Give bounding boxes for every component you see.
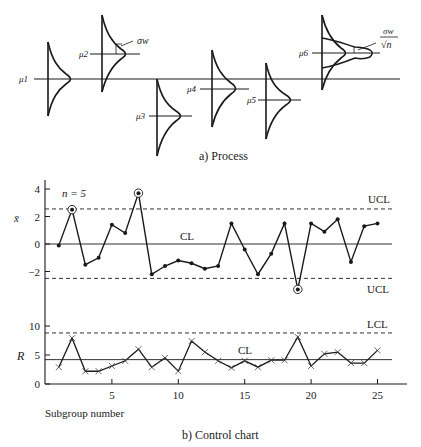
xbar-data-point xyxy=(190,261,194,265)
range-x-marker xyxy=(135,346,141,352)
xbar-data-point xyxy=(176,259,180,263)
range-x-marker xyxy=(122,358,128,364)
sigma-mean-numerator: σw xyxy=(383,26,393,36)
range-y-tick-label: 0 xyxy=(35,378,41,390)
xbar-data-point xyxy=(336,217,340,221)
xbar-data-point xyxy=(83,263,87,267)
distribution-3 xyxy=(149,79,192,156)
xbar-data-point xyxy=(70,208,74,212)
xbar-data-point xyxy=(296,287,300,291)
range-x-marker xyxy=(255,364,261,370)
range-x-marker xyxy=(215,358,221,364)
distribution-4 xyxy=(200,50,249,127)
range-x-marker xyxy=(308,363,314,369)
xbar-data-point xyxy=(110,223,114,227)
xbar-data-point xyxy=(269,252,273,256)
range-y-axis-label: R xyxy=(16,349,25,363)
distribution-5 xyxy=(258,63,301,139)
xbar-y-tick-label: 0 xyxy=(35,238,41,250)
process-labels: μ1 μ2 μ3 μ4 μ5 μ6 σw σw √n a) Process xyxy=(18,26,398,163)
mu-6-label: μ6 xyxy=(298,48,309,58)
sigma-mean-denominator: √n xyxy=(381,39,392,50)
distribution-2 xyxy=(90,15,140,92)
xbar-data-point xyxy=(349,260,353,264)
sample-size-label: n = 5 xyxy=(62,187,86,199)
range-x-marker xyxy=(149,364,155,370)
xbar-data-point xyxy=(216,264,220,268)
xbar-y-tick-label: 2 xyxy=(35,211,41,223)
range-x-marker xyxy=(69,335,75,341)
range-chart: 1050510152025 xyxy=(29,315,407,401)
x-tick-label: 10 xyxy=(173,389,185,401)
x-tick-label: 5 xyxy=(109,389,115,401)
xbar-data-point xyxy=(123,231,127,235)
range-x-marker xyxy=(109,363,115,369)
x-tick-label: 20 xyxy=(306,389,318,401)
range-x-marker xyxy=(175,368,181,374)
range-x-marker xyxy=(242,358,248,364)
process-caption: a) Process xyxy=(199,149,248,163)
xbar-data-point xyxy=(283,221,287,225)
x-tick-label: 15 xyxy=(239,389,251,401)
xbar-center-label: CL xyxy=(180,230,194,242)
xbar-upper-label: UCL xyxy=(368,193,390,205)
range-y-tick-label: 10 xyxy=(29,320,41,332)
xbar-data-point xyxy=(150,272,154,276)
range-series-line xyxy=(59,337,378,371)
mu-2-label: μ2 xyxy=(78,49,89,59)
xbar-data-point xyxy=(376,221,380,225)
range-x-marker xyxy=(295,334,301,340)
xbar-data-point xyxy=(203,267,207,271)
x-tick-label: 25 xyxy=(372,389,384,401)
xbar-chart: 420−2 xyxy=(28,180,392,315)
xbar-data-point xyxy=(229,221,233,225)
xbar-lower-label: UCL xyxy=(367,283,389,295)
range-center-label: CL xyxy=(238,344,252,356)
mu-3-label: μ3 xyxy=(135,111,146,121)
mu-4-label: μ4 xyxy=(186,84,197,94)
range-upper-label: LCL xyxy=(367,318,388,330)
xbar-data-point xyxy=(243,248,247,252)
x-axis-label: Subgroup number xyxy=(45,407,124,419)
control-chart-caption: b) Control chart xyxy=(182,428,259,442)
xbar-data-point xyxy=(97,256,101,260)
range-x-marker xyxy=(202,349,208,355)
xbar-series-line xyxy=(59,193,378,289)
xbar-data-point xyxy=(322,230,326,234)
range-y-tick-label: 5 xyxy=(35,349,41,361)
xbar-data-point xyxy=(136,191,140,195)
xbar-y-tick-label: −2 xyxy=(28,266,40,278)
process-diagram xyxy=(34,15,400,156)
mu-5-label: μ5 xyxy=(246,95,257,105)
range-x-marker xyxy=(56,364,62,370)
chart-labels: x̄ n = 5 UCL CL UCL R LCL CL Subgroup nu… xyxy=(13,187,390,442)
range-x-marker xyxy=(189,338,195,344)
xbar-data-point xyxy=(256,272,260,276)
control-chart-figure: μ1 μ2 μ3 μ4 μ5 μ6 σw σw √n a) Process 42… xyxy=(0,0,421,447)
range-x-marker xyxy=(375,347,381,353)
mu-1-label: μ1 xyxy=(18,74,28,84)
xbar-data-point xyxy=(309,221,313,225)
sigma-w-label: σw xyxy=(137,35,149,46)
xbar-y-tick-label: 4 xyxy=(35,183,41,195)
range-x-marker xyxy=(228,365,234,371)
xbar-data-point xyxy=(362,224,366,228)
xbar-data-point xyxy=(57,243,61,247)
xbar-data-point xyxy=(163,264,167,268)
xbar-y-axis-label: x̄ xyxy=(13,212,19,224)
